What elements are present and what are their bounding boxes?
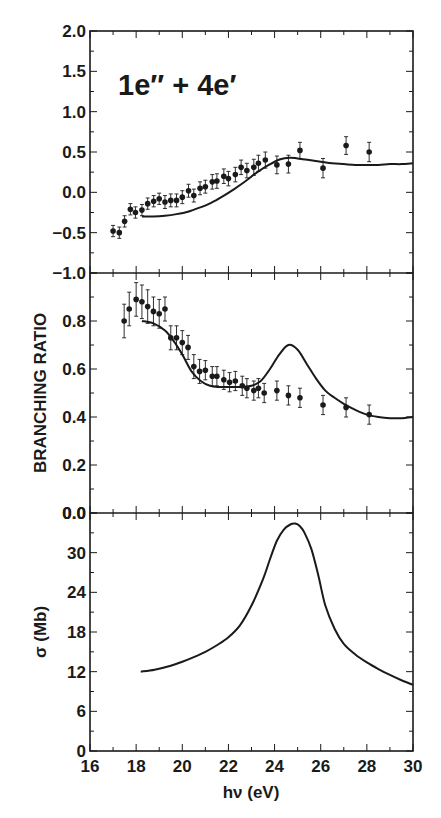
data-point	[151, 309, 157, 315]
y-tick-label: 6	[77, 702, 86, 721]
data-point	[179, 194, 185, 200]
data-point	[186, 188, 192, 194]
data-point	[297, 148, 303, 154]
data-point	[227, 379, 233, 385]
data-point	[274, 162, 280, 168]
data-point	[145, 201, 151, 207]
data-point	[110, 228, 116, 234]
y-tick-label: 0.4	[62, 408, 86, 427]
data-point	[156, 311, 162, 317]
data-point	[226, 176, 232, 182]
y-tick-label: 0.6	[62, 360, 86, 379]
data-point	[174, 198, 180, 204]
data-point	[179, 340, 185, 346]
y-tick-label: 0.5	[62, 143, 86, 162]
x-tick-label: 16	[81, 757, 100, 776]
data-point	[174, 335, 180, 341]
data-point	[133, 297, 139, 303]
data-point	[251, 165, 257, 171]
data-point	[191, 364, 197, 370]
data-point	[274, 388, 280, 394]
data-point	[197, 369, 203, 375]
y-tick-label: 24	[67, 583, 86, 602]
chart-svg: 2.01.51.00.50.0−0.5−1.00.80.60.40.20.030…	[0, 0, 441, 818]
data-point	[256, 160, 262, 166]
y-tick-label: 2.0	[62, 22, 86, 41]
data-point	[233, 172, 239, 178]
data-point	[126, 306, 132, 312]
data-point	[121, 318, 127, 324]
data-point	[366, 149, 372, 155]
data-point	[151, 198, 157, 204]
data-point	[139, 299, 145, 305]
data-point	[286, 393, 292, 399]
data-point	[168, 198, 174, 204]
data-point	[139, 207, 145, 213]
y-tick-label: −0.5	[52, 224, 86, 243]
data-point	[238, 165, 244, 171]
theory-curve	[141, 523, 413, 685]
y-tick-label: 0.0	[62, 183, 86, 202]
y-axis-title-cross-section: σ (Mb)	[31, 606, 50, 658]
x-tick-label: 20	[173, 757, 192, 776]
x-axis-title: hν (eV)	[223, 783, 280, 802]
data-point	[117, 230, 123, 236]
x-tick-label: 26	[311, 757, 330, 776]
data-point	[203, 184, 209, 190]
data-point	[197, 186, 203, 192]
data-point	[297, 395, 303, 401]
x-tick-label: 30	[404, 757, 423, 776]
data-point	[122, 219, 128, 225]
data-point	[221, 377, 227, 383]
figure: 2.01.51.00.50.0−0.5−1.00.80.60.40.20.030…	[0, 0, 441, 818]
data-point	[244, 168, 250, 174]
data-series	[110, 137, 413, 685]
data-point	[320, 402, 326, 408]
data-point	[261, 390, 267, 396]
y-tick-label: 0.2	[62, 456, 86, 475]
data-point	[256, 385, 262, 391]
y-axis-title-branching-ratio: BRANCHING RATIO	[31, 313, 50, 473]
data-point	[191, 193, 197, 199]
data-point	[185, 345, 191, 351]
data-point	[133, 210, 139, 216]
data-point	[286, 161, 292, 167]
y-tick-label: −1.0	[52, 264, 86, 283]
data-point	[214, 178, 220, 184]
y-tick-label: 1.0	[62, 103, 86, 122]
data-point	[203, 367, 209, 373]
x-tick-label: 28	[357, 757, 376, 776]
data-point	[214, 373, 220, 379]
panel-annotation: 1e″ + 4e′	[118, 69, 236, 101]
data-point	[156, 196, 162, 202]
data-point	[343, 143, 349, 149]
data-point	[162, 306, 168, 312]
y-tick-label: 12	[67, 663, 86, 682]
y-tick-label: 18	[67, 623, 86, 642]
data-point	[128, 206, 134, 212]
y-tick-label: 0.8	[62, 312, 86, 331]
x-tick-label: 24	[265, 757, 284, 776]
data-point	[320, 165, 326, 171]
y-tick-label: 0.0	[62, 504, 86, 523]
data-point	[162, 199, 168, 205]
data-point	[233, 378, 239, 384]
y-tick-label: 30	[67, 544, 86, 563]
x-tick-label: 22	[219, 757, 238, 776]
x-tick-label: 18	[127, 757, 146, 776]
data-point	[145, 304, 151, 310]
data-point	[263, 157, 269, 163]
y-tick-label: 1.5	[62, 62, 86, 81]
